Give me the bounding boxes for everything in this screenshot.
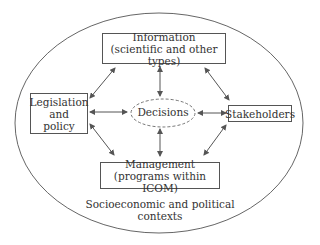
node-legislation-line2: and — [49, 108, 69, 120]
node-stakeholders: Stakeholders — [228, 105, 292, 122]
node-management: Management (programs within ICOM) — [100, 162, 220, 189]
node-information: Information (scientific and other types) — [102, 33, 226, 64]
node-management-subtitle: (programs within ICOM) — [101, 170, 219, 194]
node-legislation-line3: policy — [43, 120, 75, 132]
node-stakeholders-title: Stakeholders — [225, 108, 295, 120]
node-information-subtitle: (scientific and other types) — [103, 43, 225, 67]
node-legislation: Legislation and policy — [30, 93, 88, 134]
edge-information-stakeholders — [205, 68, 229, 100]
node-legislation-line1: Legislation — [30, 96, 89, 108]
node-information-title: Information — [132, 31, 195, 43]
node-management-title: Management — [125, 158, 195, 170]
edge-information-legislation — [90, 68, 115, 98]
decisions-label: Decisions — [131, 106, 195, 118]
edge-legislation-management — [90, 124, 114, 155]
context-label: Socioeconomic and political contexts — [70, 198, 250, 222]
edge-stakeholders-management — [204, 125, 226, 155]
